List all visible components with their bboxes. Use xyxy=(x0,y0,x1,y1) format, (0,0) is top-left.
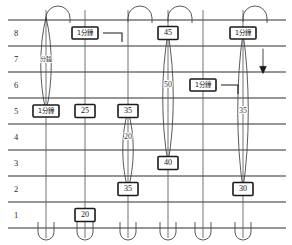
value-label: 分鐘 xyxy=(40,55,52,63)
row-label: 3 xyxy=(14,158,18,168)
row-label: 4 xyxy=(14,132,19,142)
diagram-column[interactable]: 分鐘1分鐘 xyxy=(33,6,70,240)
direction-arrow-icon xyxy=(260,49,266,74)
diagram-column[interactable]: 352035 xyxy=(118,6,152,240)
row-label: 2 xyxy=(14,184,18,194)
row-label: 8 xyxy=(14,28,18,38)
value-label: 20 xyxy=(124,132,132,141)
grid-lines xyxy=(8,20,286,228)
row-label: 5 xyxy=(14,106,18,116)
row-label: 6 xyxy=(14,80,18,90)
diagram-column[interactable]: 1分鐘2520 xyxy=(72,10,98,240)
value-box-label: 40 xyxy=(164,158,172,167)
diagram-column[interactable]: 1分鐘 xyxy=(190,10,216,240)
value-box-label: 30 xyxy=(239,184,247,193)
leader-line xyxy=(103,33,122,42)
value-box-label: 25 xyxy=(81,106,89,115)
value-box-label: 1分鐘 xyxy=(77,28,94,37)
timing-diagram: 87654321分鐘1分鐘1分鐘25203520354550401分鐘1分鐘35… xyxy=(0,0,292,245)
value-box-label: 1分鐘 xyxy=(38,106,55,115)
value-box-label: 20 xyxy=(81,210,89,219)
value-box-label: 45 xyxy=(164,28,172,37)
value-label: 35 xyxy=(239,106,247,115)
value-box-label: 1分鐘 xyxy=(195,80,212,89)
leader-line xyxy=(221,85,238,94)
value-box-label: 1分鐘 xyxy=(235,28,252,37)
diagram-column[interactable]: 1分鐘3530 xyxy=(230,6,267,240)
value-box-label: 35 xyxy=(124,106,132,115)
diagram-column[interactable]: 455040 xyxy=(158,6,192,240)
diagram-canvas: 87654321分鐘1分鐘1分鐘25203520354550401分鐘1分鐘35… xyxy=(0,0,292,245)
row-label: 1 xyxy=(14,210,18,220)
row-label: 7 xyxy=(14,54,18,64)
value-label: 50 xyxy=(164,80,172,89)
value-box-label: 35 xyxy=(124,184,132,193)
